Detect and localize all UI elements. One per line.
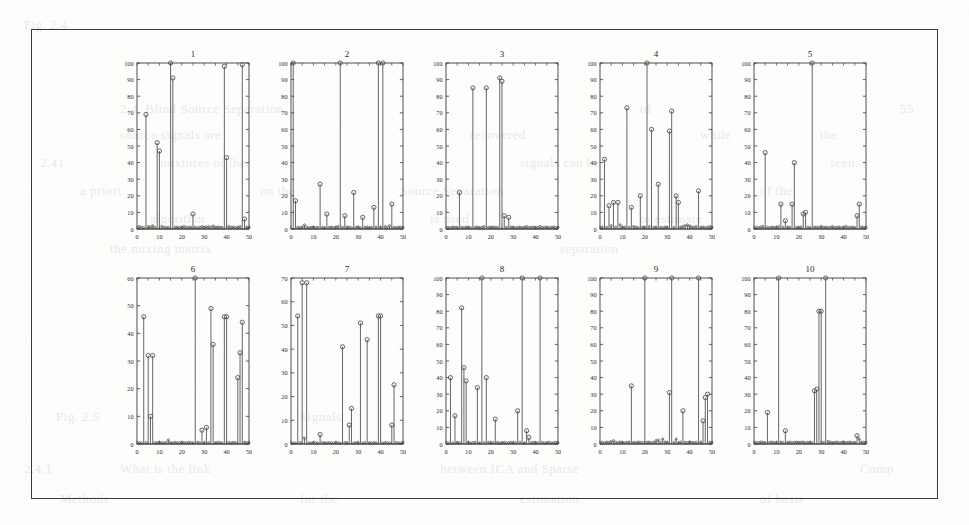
svg-text:30: 30: [664, 233, 670, 240]
svg-text:50: 50: [281, 143, 287, 150]
svg-text:20: 20: [488, 448, 494, 455]
svg-text:60: 60: [127, 126, 133, 133]
stem-marker: [239, 225, 241, 227]
svg-text:70: 70: [281, 109, 287, 116]
stem-series: [601, 276, 713, 444]
stem-marker: [847, 226, 849, 228]
axes-2: 010203040506070809010001020304050: [267, 60, 406, 243]
stem-marker: [539, 225, 541, 227]
svg-text:20: 20: [179, 233, 185, 240]
svg-text:100: 100: [741, 60, 750, 67]
stem-series: [447, 276, 559, 444]
svg-text:40: 40: [436, 374, 442, 381]
stem-marker: [208, 225, 210, 227]
stem-series: [755, 61, 867, 229]
axes-6: 010203040506001020304050: [113, 275, 252, 458]
svg-text:40: 40: [281, 159, 287, 166]
svg-text:30: 30: [510, 448, 516, 455]
svg-text:40: 40: [127, 159, 133, 166]
svg-text:50: 50: [127, 302, 133, 309]
svg-text:60: 60: [436, 126, 442, 133]
svg-text:20: 20: [281, 393, 287, 400]
svg-text:50: 50: [281, 322, 287, 329]
svg-text:0: 0: [439, 226, 442, 233]
svg-text:90: 90: [436, 291, 442, 298]
svg-text:80: 80: [590, 308, 596, 315]
stem-marker: [695, 225, 697, 227]
svg-text:30: 30: [590, 176, 596, 183]
svg-text:60: 60: [744, 341, 750, 348]
svg-text:40: 40: [378, 448, 384, 455]
svg-text:10: 10: [590, 209, 596, 216]
svg-text:20: 20: [796, 448, 802, 455]
stem-marker: [163, 442, 165, 444]
svg-text:70: 70: [436, 109, 442, 116]
svg-text:10: 10: [281, 209, 287, 216]
svg-text:20: 20: [590, 407, 596, 414]
subplot-8: 8010203040506070809010001020304050: [446, 278, 558, 444]
stem-marker: [384, 225, 386, 227]
svg-text:10: 10: [465, 233, 471, 240]
axes-7: 01020304050607001020304050: [267, 275, 406, 458]
stem-marker: [526, 225, 528, 227]
svg-text:20: 20: [436, 407, 442, 414]
stem-marker: [140, 442, 142, 444]
svg-text:50: 50: [590, 358, 596, 365]
svg-text:10: 10: [744, 424, 750, 431]
svg-text:80: 80: [281, 93, 287, 100]
svg-text:100: 100: [278, 60, 287, 67]
axes-3: 010203040506070809010001020304050: [422, 60, 561, 243]
svg-text:20: 20: [488, 233, 494, 240]
svg-text:50: 50: [246, 233, 252, 240]
svg-text:20: 20: [127, 385, 133, 392]
svg-text:50: 50: [709, 233, 715, 240]
stem-marker: [178, 442, 180, 444]
svg-text:20: 20: [127, 192, 133, 199]
svg-text:70: 70: [127, 109, 133, 116]
stem-marker: [831, 225, 833, 227]
svg-text:30: 30: [281, 176, 287, 183]
svg-text:70: 70: [281, 275, 287, 282]
stem-marker: [778, 225, 780, 227]
subplot-title: 4: [600, 49, 712, 59]
svg-text:20: 20: [281, 192, 287, 199]
svg-text:40: 40: [533, 233, 539, 240]
subplot-7: 701020304050607001020304050: [291, 278, 403, 444]
svg-text:30: 30: [355, 448, 361, 455]
svg-text:50: 50: [246, 448, 252, 455]
stem-marker: [337, 225, 339, 227]
subplot-4: 4010203040506070809010001020304050: [600, 63, 712, 229]
svg-text:100: 100: [587, 60, 596, 67]
stem-marker: [228, 225, 230, 227]
svg-text:0: 0: [130, 441, 133, 448]
stem-marker: [682, 225, 684, 227]
svg-text:50: 50: [744, 358, 750, 365]
svg-text:60: 60: [590, 126, 596, 133]
svg-text:50: 50: [436, 143, 442, 150]
svg-text:0: 0: [593, 226, 596, 233]
svg-text:30: 30: [201, 233, 207, 240]
subplot-3: 3010203040506070809010001020304050: [446, 63, 558, 229]
stem-marker: [375, 442, 377, 444]
stem-marker: [397, 442, 399, 444]
svg-text:0: 0: [444, 233, 447, 240]
svg-text:80: 80: [436, 308, 442, 315]
svg-text:20: 20: [590, 192, 596, 199]
stem-marker: [147, 225, 149, 227]
svg-text:30: 30: [664, 448, 670, 455]
svg-text:10: 10: [619, 448, 625, 455]
svg-text:10: 10: [744, 209, 750, 216]
svg-text:0: 0: [752, 448, 755, 455]
subplot-title: 1: [137, 49, 249, 59]
stem-marker: [818, 226, 820, 228]
svg-text:100: 100: [433, 60, 442, 67]
svg-text:10: 10: [465, 448, 471, 455]
svg-text:40: 40: [378, 233, 384, 240]
svg-text:50: 50: [863, 233, 869, 240]
svg-text:60: 60: [281, 298, 287, 305]
stem-marker: [201, 225, 203, 227]
stem-series: [601, 61, 713, 229]
svg-text:10: 10: [281, 417, 287, 424]
axes-8: 010203040506070809010001020304050: [422, 275, 561, 458]
svg-text:10: 10: [590, 424, 596, 431]
